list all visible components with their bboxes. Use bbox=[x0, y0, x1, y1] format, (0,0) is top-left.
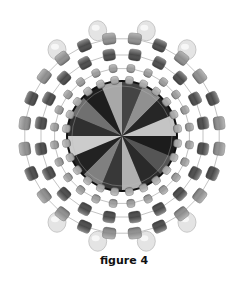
outer-ring-bead bbox=[213, 116, 226, 130]
dark-ring-bead bbox=[151, 201, 167, 216]
dark-ring-bead bbox=[151, 55, 167, 70]
small-ring-bead bbox=[180, 157, 190, 167]
small-ring-bead bbox=[126, 64, 135, 73]
outer-ring-bead bbox=[128, 33, 142, 46]
dark-ring-bead bbox=[56, 70, 72, 86]
small-ring-bead bbox=[91, 194, 101, 204]
dark-ring-bead bbox=[41, 165, 56, 181]
dark-ring-bead bbox=[187, 165, 202, 181]
inner-ring-bead bbox=[110, 76, 119, 85]
small-ring-bead bbox=[54, 157, 64, 167]
dark-ring-bead bbox=[128, 49, 142, 62]
bead-diagram bbox=[0, 0, 248, 283]
small-ring-bead bbox=[109, 199, 118, 208]
dark-ring-bead bbox=[172, 186, 188, 202]
outer-ring-bead bbox=[102, 33, 116, 46]
dark-ring-bead bbox=[172, 70, 188, 86]
outer-ring-bead bbox=[205, 165, 220, 181]
inner-ring-bead bbox=[62, 124, 71, 133]
small-ring-bead bbox=[50, 140, 59, 149]
dark-ring-bead bbox=[102, 211, 116, 224]
dark-ring-bead bbox=[187, 91, 202, 107]
small-ring-bead bbox=[91, 68, 101, 78]
outer-ring-bead bbox=[76, 219, 92, 234]
small-ring-bead bbox=[54, 105, 64, 115]
rivoli-crystal bbox=[66, 80, 178, 192]
small-ring-bead bbox=[180, 105, 190, 115]
small-ring-bead bbox=[126, 199, 135, 208]
dark-ring-bead bbox=[56, 186, 72, 202]
outer-ring-bead bbox=[128, 227, 142, 240]
inner-ring-bead bbox=[125, 187, 134, 196]
dark-ring-bead bbox=[197, 116, 210, 130]
dark-ring-bead bbox=[35, 116, 48, 130]
small-ring-bead bbox=[50, 123, 59, 132]
outer-ring-bead bbox=[151, 219, 167, 234]
small-ring-bead bbox=[109, 64, 118, 73]
outer-ring-bead bbox=[205, 90, 220, 106]
dark-ring-bead bbox=[41, 91, 56, 107]
inner-ring-bead bbox=[173, 139, 182, 148]
dark-ring-bead bbox=[197, 142, 210, 156]
dark-ring-bead bbox=[77, 201, 93, 216]
outer-ring-bead bbox=[24, 90, 39, 106]
small-ring-bead bbox=[143, 68, 153, 78]
outer-ring-bead bbox=[19, 142, 32, 156]
figure-caption: figure 4 bbox=[0, 254, 248, 267]
inner-ring-bead bbox=[125, 76, 134, 85]
small-ring-bead bbox=[143, 194, 153, 204]
inner-ring-bead bbox=[110, 187, 119, 196]
dark-ring-bead bbox=[35, 142, 48, 156]
inner-ring-bead bbox=[173, 124, 182, 133]
inner-ring-bead bbox=[62, 139, 71, 148]
dark-ring-bead bbox=[102, 49, 116, 62]
outer-ring-bead bbox=[76, 38, 92, 53]
small-ring-bead bbox=[185, 140, 194, 149]
outer-ring-bead bbox=[102, 227, 116, 240]
outer-ring-bead bbox=[19, 116, 32, 130]
outer-ring-bead bbox=[151, 38, 167, 53]
dark-ring-bead bbox=[128, 211, 142, 224]
small-ring-bead bbox=[185, 123, 194, 132]
dark-ring-bead bbox=[77, 55, 93, 70]
outer-ring-bead bbox=[24, 165, 39, 181]
outer-ring-bead bbox=[213, 142, 226, 156]
